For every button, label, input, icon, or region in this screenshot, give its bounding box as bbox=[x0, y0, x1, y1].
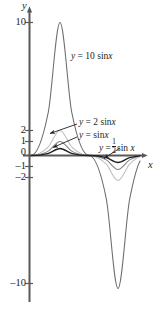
annotation-10-sin-x-y: y bbox=[71, 51, 75, 61]
x-axis-label: x bbox=[148, 160, 153, 171]
annotation-sin-x-y: y bbox=[79, 130, 83, 140]
fraction-denominator: 2 bbox=[112, 146, 116, 155]
annotation-2-sin-x: y = 2 sinx bbox=[79, 118, 116, 128]
y-tick-label-0: 0 bbox=[6, 147, 26, 158]
y-tick-label-1: 1 bbox=[6, 136, 26, 147]
y-tick-label-10: 10 bbox=[6, 17, 26, 28]
annotation-half-sin-x-fraction: 12 bbox=[112, 138, 116, 155]
leader-sin bbox=[53, 137, 77, 148]
annotation-half-sin-x-fn: sin bbox=[117, 143, 128, 153]
leader-2sin bbox=[50, 124, 77, 134]
annotation-half-sin-x-y: y bbox=[99, 143, 103, 153]
y-tick-label-2: 2 bbox=[6, 125, 26, 136]
annotation-half-sin-x-equals: = bbox=[106, 143, 111, 153]
sine-amplitude-figure: 10 2 1 0 –1 –2 –10 y x y = 10 sinx y = 2… bbox=[0, 0, 163, 309]
annotation-2-sin-x-body: = 2 sin bbox=[86, 117, 112, 127]
y-tick-label-minus-2: –2 bbox=[2, 172, 26, 183]
y-axis-label: y bbox=[22, 1, 27, 12]
annotation-10-sin-x-var: x bbox=[108, 51, 112, 61]
annotation-2-sin-x-var: x bbox=[112, 117, 116, 127]
annotation-10-sin-x-body: = 10 sin bbox=[78, 51, 109, 61]
fraction-numerator: 1 bbox=[112, 138, 116, 146]
annotation-half-sin-x-var: x bbox=[130, 143, 134, 153]
y-tick-label-minus-10: –10 bbox=[0, 278, 26, 289]
y-tick-label-minus-1: –1 bbox=[2, 161, 26, 172]
annotation-half-sin-x: y =12sin x bbox=[99, 138, 135, 155]
annotation-2-sin-x-y: y bbox=[79, 117, 83, 127]
annotation-10-sin-x: y = 10 sinx bbox=[71, 52, 113, 62]
